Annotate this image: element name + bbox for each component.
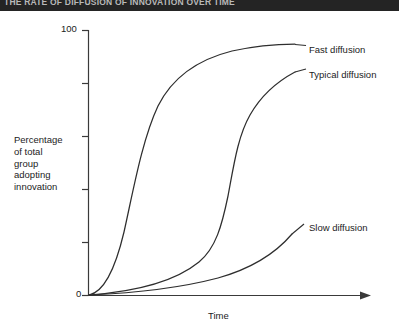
curve-label-fast-diffusion: Fast diffusion (309, 44, 365, 55)
y-axis-title-line-4: adopting (14, 169, 92, 181)
figure-root: THE RATE OF DIFFUSION OF INNOVATION OVER… (0, 0, 399, 332)
y-axis-title-line-5: innovation (14, 181, 92, 193)
leader-line-fast (295, 45, 306, 46)
y-axis-title-line-1: Percentage (14, 134, 92, 146)
y-axis-title-line-3: group (14, 158, 92, 170)
leader-line-slow (292, 224, 304, 234)
y-tick-label-0: 0 (76, 288, 81, 299)
curve-label-typical-diffusion: Typical diffusion (309, 69, 376, 80)
y-tick-label-100: 100 (61, 23, 77, 34)
x-axis-title: Time (208, 310, 229, 321)
leader-line-typical (295, 69, 306, 72)
curve-typical-diffusion (89, 72, 295, 295)
y-axis-title: Percentage of total group adopting innov… (14, 134, 92, 193)
curve-slow-diffusion (89, 234, 292, 295)
curve-label-slow-diffusion: Slow diffusion (309, 222, 367, 233)
x-axis-arrow-icon (360, 292, 371, 300)
y-axis-title-line-2: of total (14, 146, 92, 158)
